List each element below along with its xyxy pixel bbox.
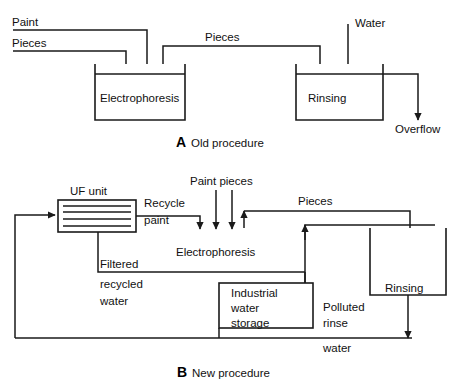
flow-diagram-canvas: Paint Pieces Pieces Water Overflow Elect… xyxy=(0,0,463,389)
return-loop-line xyxy=(15,215,55,338)
panel-a-group: Paint Pieces Pieces Water Overflow Elect… xyxy=(12,16,441,150)
storage-label-line3: storage xyxy=(231,317,269,329)
pieces-label-b: Pieces xyxy=(298,195,333,207)
process-flow-diagram: Paint Pieces Pieces Water Overflow Elect… xyxy=(0,0,463,389)
overflow-label: Overflow xyxy=(395,123,441,135)
uf-unit-box xyxy=(58,200,136,232)
polluted-label-line1: Polluted xyxy=(323,301,365,313)
caption-b-text: New procedure xyxy=(192,367,270,379)
rinsing-label-b: Rinsing xyxy=(385,282,423,294)
electrophoresis-label-b: Electrophoresis xyxy=(176,246,256,258)
filtered-label-line3: water xyxy=(99,295,128,307)
caption-b-letter: B xyxy=(177,364,187,380)
polluted-label-line3: water xyxy=(322,342,351,354)
rinsing-label-a: Rinsing xyxy=(308,92,346,104)
uf-unit-label: UF unit xyxy=(70,185,108,197)
filtered-label-line2: recycled xyxy=(100,278,143,290)
water-input-label: Water xyxy=(355,17,385,29)
filtered-label-line1: Filtered xyxy=(100,258,138,270)
electrophoresis-label-a: Electrophoresis xyxy=(100,92,180,104)
overflow-line xyxy=(383,74,418,120)
recycle-paint-label-line1: Recycle xyxy=(144,197,185,209)
panel-b-group: UF unit Recycle paint Paint pieces Piece… xyxy=(15,175,446,380)
storage-label-line2: water xyxy=(230,302,259,314)
recycle-paint-label-line2: paint xyxy=(144,214,170,226)
pieces-input-label: Pieces xyxy=(12,37,47,49)
paint-pieces-label: Paint pieces xyxy=(190,175,253,187)
caption-a-letter: A xyxy=(176,134,186,150)
caption-a-text: Old procedure xyxy=(191,137,264,149)
storage-label-line1: Industrial xyxy=(231,287,278,299)
paint-input-label: Paint xyxy=(12,16,39,28)
pieces-transfer-label: Pieces xyxy=(205,31,240,43)
polluted-label-line2: rinse xyxy=(323,317,348,329)
